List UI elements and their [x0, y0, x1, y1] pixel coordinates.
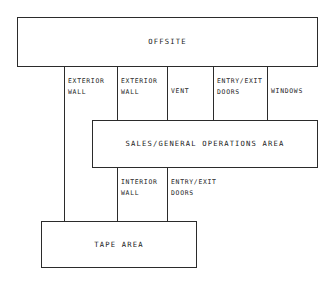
connector-line-entry-exit-doors-1 [213, 67, 214, 120]
connector-label-entry-exit-doors-1: ENTRY/EXIT DOORS [217, 76, 263, 97]
connector-line-vent-upper [167, 67, 168, 120]
connector-line-windows [267, 67, 268, 120]
connector-line-exterior-wall-2-upper [117, 67, 118, 120]
facility-block-diagram: OFFSITE SALES/GENERAL OPERATIONS AREA TA… [0, 0, 334, 286]
connector-line-exterior-wall-1 [64, 67, 65, 221]
connector-label-windows: WINDOWS [271, 86, 303, 97]
sales-general-operations-area-box-label: SALES/GENERAL OPERATIONS AREA [126, 140, 285, 147]
offsite-box: OFFSITE [17, 17, 318, 67]
connector-line-entry-exit-doors-2 [167, 168, 168, 221]
connector-label-entry-exit-doors-2: ENTRY/EXIT DOORS [171, 177, 217, 198]
connector-label-exterior-wall-2: EXTERIOR WALL [121, 76, 158, 97]
connector-label-exterior-wall-1: EXTERIOR WALL [68, 76, 105, 97]
connector-label-vent: VENT [171, 86, 189, 97]
connector-label-interior-wall: INTERIOR WALL [121, 177, 158, 198]
offsite-box-label: OFFSITE [148, 38, 186, 45]
sales-general-operations-area-box: SALES/GENERAL OPERATIONS AREA [92, 120, 318, 168]
tape-area-box: TAPE AREA [41, 221, 197, 268]
tape-area-box-label: TAPE AREA [94, 241, 143, 248]
connector-line-interior-wall [117, 168, 118, 221]
